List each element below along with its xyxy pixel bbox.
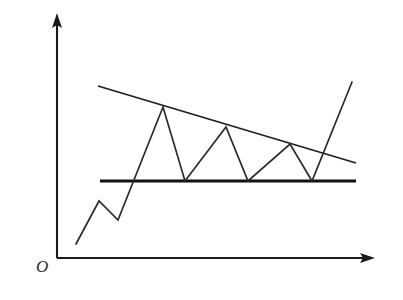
chart-canvas (0, 0, 403, 300)
chart-figure: O (0, 0, 403, 300)
origin-label: O (36, 258, 48, 275)
price-series-path (76, 82, 352, 244)
resistance-trend-line (98, 86, 356, 163)
